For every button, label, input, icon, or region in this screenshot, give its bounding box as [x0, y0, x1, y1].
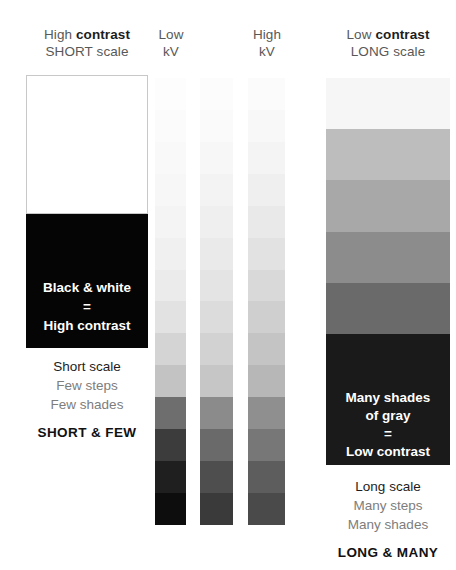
wedge-step: [155, 301, 186, 333]
wedge-step: [200, 238, 233, 270]
wedge-step: [326, 232, 450, 283]
step-wedge-mid-kv: [200, 78, 233, 525]
wedge-step: [326, 180, 450, 231]
wedge-step: [326, 283, 450, 334]
dark-panel-line-4: Low contrast: [346, 443, 430, 461]
wedge-step: [155, 429, 186, 461]
wedge-step: [155, 78, 186, 110]
header-low-kv-line1: Low: [158, 27, 183, 42]
wedge-step: [200, 206, 233, 238]
wedge-step: [326, 334, 450, 385]
wedge-step: [248, 270, 285, 302]
wedge-step: [155, 461, 186, 493]
wedge-step: [155, 397, 186, 429]
dark-panel-line-1: Many shades: [346, 389, 431, 407]
high-contrast-caption: Short scale Few steps Few shades: [26, 357, 148, 414]
header-low-contrast: Low contrast LONG scale: [326, 26, 450, 60]
wedge-step: [200, 397, 233, 429]
wedge-step: [200, 174, 233, 206]
low-contrast-caption-line-1: Long scale: [326, 477, 450, 496]
wedge-step: [155, 206, 186, 238]
wedge-step: [155, 142, 186, 174]
header-low-contrast-line2: LONG scale: [326, 43, 450, 60]
wedge-step: [155, 110, 186, 142]
wedge-step: [200, 493, 233, 525]
high-contrast-caption-line-1: Short scale: [26, 357, 148, 376]
black-panel-line-1: Black & white: [43, 278, 131, 297]
wedge-step: [155, 493, 186, 525]
wedge-step: [326, 78, 450, 129]
high-contrast-shout: SHORT & FEW: [26, 425, 148, 440]
low-contrast-dark-panel: Many shades of gray = Low contrast: [326, 385, 450, 465]
wedge-step: [200, 142, 233, 174]
low-contrast-shout: LONG & MANY: [326, 545, 450, 560]
wedge-step: [200, 429, 233, 461]
low-contrast-caption-line-3: Many shades: [326, 515, 450, 534]
wedge-step: [200, 365, 233, 397]
high-contrast-caption-line-3: Few shades: [26, 395, 148, 414]
dark-panel-line-2: of gray: [365, 407, 410, 425]
wedge-step: [248, 397, 285, 429]
header-low-kv: Low kV: [140, 26, 202, 60]
header-high-contrast-line2: SHORT scale: [26, 43, 148, 60]
wedge-step: [248, 206, 285, 238]
wedge-step: [155, 174, 186, 206]
wedge-step: [155, 333, 186, 365]
wedge-step: [200, 461, 233, 493]
high-contrast-black-panel: Black & white = High contrast: [26, 214, 148, 348]
low-contrast-caption-line-2: Many steps: [326, 496, 450, 515]
wedge-step: [200, 78, 233, 110]
wedge-step: [248, 142, 285, 174]
wedge-step: [155, 238, 186, 270]
low-contrast-caption: Long scale Many steps Many shades: [326, 477, 450, 534]
wedge-step: [200, 301, 233, 333]
wedge-step: [248, 301, 285, 333]
black-panel-line-3: High contrast: [43, 316, 130, 335]
figure-canvas: High contrast SHORT scale Low kV High kV…: [0, 0, 456, 570]
header-low-contrast-line1: Low contrast: [347, 27, 430, 42]
wedge-step: [200, 333, 233, 365]
step-wedge-low-kv: [155, 78, 186, 525]
wedge-step: [200, 270, 233, 302]
wedge-step: [248, 429, 285, 461]
step-wedge-low-contrast: [326, 78, 450, 385]
wedge-step: [248, 333, 285, 365]
wedge-step: [248, 461, 285, 493]
wedge-step: [155, 365, 186, 397]
wedge-step: [200, 110, 233, 142]
high-contrast-white-panel: [26, 75, 148, 214]
dark-panel-line-3: =: [384, 425, 392, 443]
wedge-step: [248, 78, 285, 110]
wedge-step: [248, 238, 285, 270]
header-high-contrast-line1: High contrast: [44, 27, 130, 42]
wedge-step: [326, 129, 450, 180]
high-contrast-caption-line-2: Few steps: [26, 376, 148, 395]
header-low-kv-line2: kV: [140, 43, 202, 60]
black-panel-line-2: =: [83, 297, 91, 316]
wedge-step: [248, 174, 285, 206]
wedge-step: [248, 110, 285, 142]
step-wedge-high-kv: [248, 78, 285, 525]
header-high-contrast: High contrast SHORT scale: [26, 26, 148, 60]
wedge-step: [248, 493, 285, 525]
header-high-kv-line1: High: [253, 27, 281, 42]
header-high-kv-line2: kV: [236, 43, 298, 60]
wedge-step: [248, 365, 285, 397]
header-high-kv: High kV: [236, 26, 298, 60]
wedge-step: [155, 270, 186, 302]
